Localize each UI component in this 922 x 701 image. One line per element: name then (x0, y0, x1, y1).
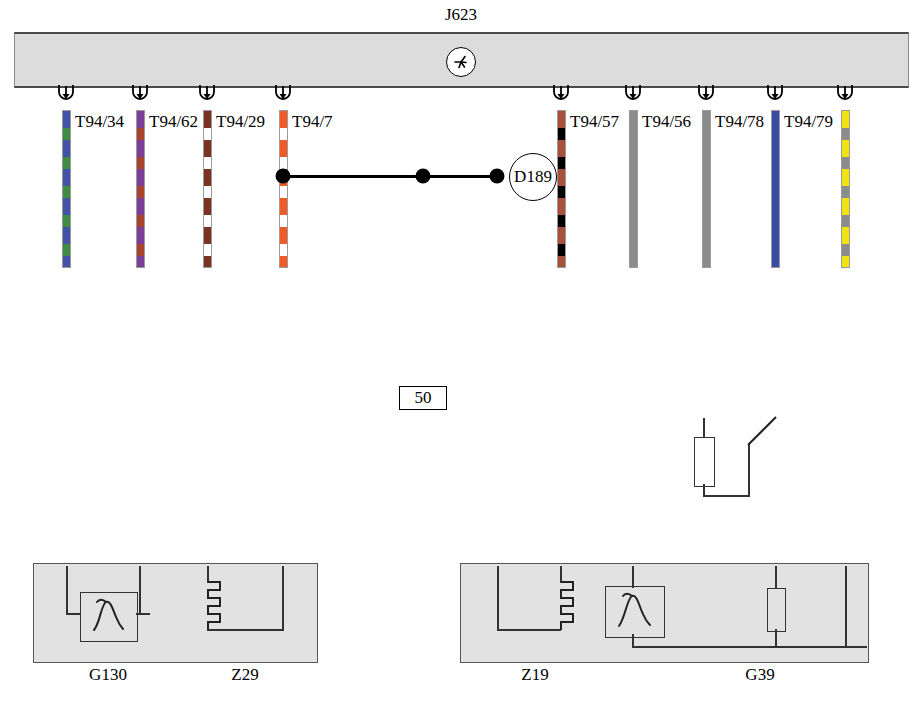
splice-dot (416, 169, 431, 184)
ecu-terminal-label: T94/34 (75, 113, 124, 130)
splice-designation-d189: D189 (509, 153, 557, 201)
ecu-terminal-hook-icon (696, 84, 716, 102)
wire-w7 (557, 110, 566, 268)
component-label-g39: G39 (745, 666, 774, 683)
lead (632, 646, 867, 648)
lead (845, 566, 847, 648)
lead (497, 629, 561, 631)
component-label-z29: Z29 (231, 666, 258, 683)
ecu-terminal-hook-icon (551, 84, 571, 102)
ecu-label-j623: J623 (445, 6, 477, 23)
lead (703, 495, 750, 497)
lead (66, 613, 81, 615)
splice-bus-line (283, 175, 497, 178)
shield-diagonal-lead (746, 416, 778, 448)
ecu-terminal-hook-icon (130, 84, 150, 102)
ecu-terminal-hook-icon (273, 84, 293, 102)
lambda-symbol-g39 (605, 586, 665, 638)
fuse-50: 50 (399, 386, 447, 410)
ecu-terminal-label: T94/57 (570, 113, 619, 130)
component-label-z19: Z19 (521, 666, 548, 683)
wire-w10 (771, 110, 780, 268)
wiring-diagram: J623 T94/34T94/62T94/29T94/7T94/57T94/56… (0, 0, 922, 701)
heater-symbol-z29 (198, 581, 230, 631)
lead (139, 566, 141, 615)
resistor-symbol-g39 (767, 588, 786, 632)
wire-w9 (702, 110, 711, 268)
ecu-terminal-label: T94/62 (149, 113, 198, 130)
lambda-symbol-g130 (80, 592, 138, 642)
ecu-terminal-label: T94/7 (292, 113, 333, 130)
ecu-terminal-hook-icon (835, 84, 855, 102)
ecu-terminal-hook-icon (197, 84, 217, 102)
wire-w4 (279, 110, 288, 268)
ecu-terminal-hook-icon (56, 84, 76, 102)
lead (66, 566, 68, 615)
ecu-terminal-label: T94/56 (642, 113, 691, 130)
lead (282, 566, 284, 631)
lead (703, 418, 705, 438)
wire-w11 (841, 110, 850, 268)
lead (632, 566, 634, 588)
shield-resistor (694, 437, 715, 487)
ecu-terminal-hook-icon (623, 84, 643, 102)
wire-w3 (203, 110, 212, 268)
lead (207, 629, 284, 631)
lead (497, 566, 499, 631)
star-in-circle-icon (446, 47, 476, 77)
lead (775, 566, 777, 589)
splice-label: D189 (514, 167, 552, 187)
wire-w1 (62, 110, 71, 268)
wire-w2 (136, 110, 145, 268)
splice-dot (490, 169, 505, 184)
heater-symbol-z19 (551, 581, 583, 631)
splice-dot (276, 169, 291, 184)
ecu-terminal-label: T94/79 (784, 113, 833, 130)
ecu-terminal-hook-icon (765, 84, 785, 102)
lead (775, 629, 777, 648)
wire-w8 (629, 110, 638, 268)
component-label-g130: G130 (89, 666, 127, 683)
fuse-label: 50 (415, 388, 432, 408)
ecu-terminal-label: T94/78 (715, 113, 764, 130)
lead (748, 444, 750, 497)
ecu-terminal-label: T94/29 (216, 113, 265, 130)
